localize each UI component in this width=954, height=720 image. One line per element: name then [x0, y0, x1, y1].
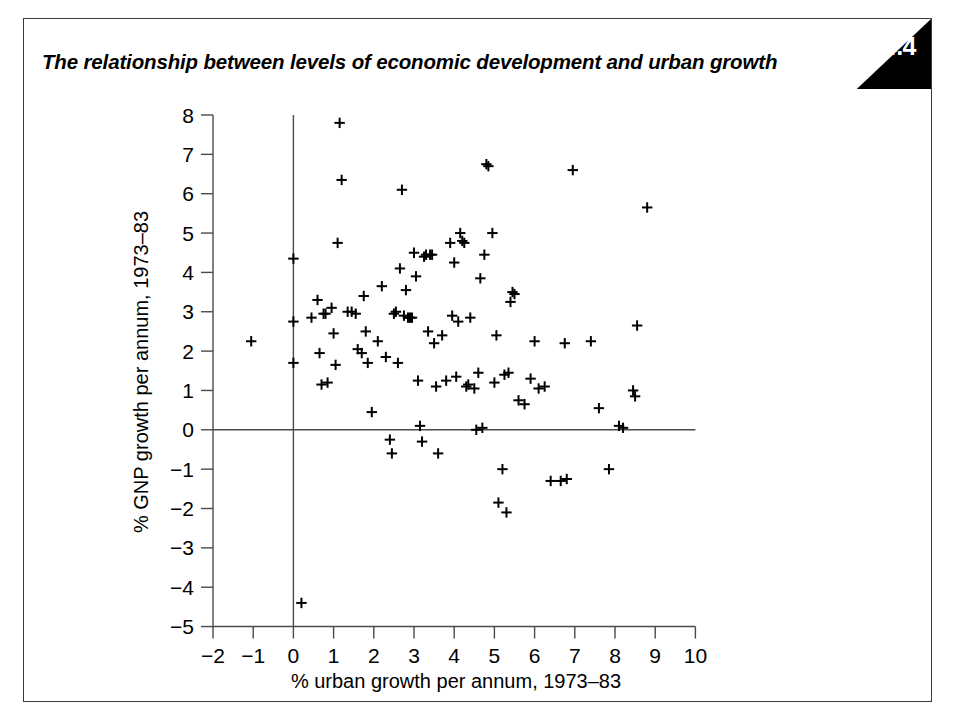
y-tick-label: 2: [182, 340, 194, 363]
data-point: [471, 425, 481, 435]
data-point: [562, 474, 572, 484]
y-tick-label: 1: [182, 379, 194, 402]
data-point: [417, 436, 427, 446]
data-point: [336, 175, 346, 185]
data-point: [441, 375, 451, 385]
data-point: [594, 403, 604, 413]
data-point: [419, 251, 429, 261]
x-axis: [213, 627, 695, 639]
data-point: [475, 273, 485, 283]
data-point: [397, 185, 407, 195]
data-point: [628, 385, 638, 395]
x-tick-label: −2: [201, 644, 225, 667]
data-point: [539, 381, 549, 391]
data-point: [459, 238, 469, 248]
data-point: [453, 316, 463, 326]
data-point: [501, 507, 511, 517]
data-point: [320, 309, 330, 319]
data-point: [487, 228, 497, 238]
y-tick-label: −3: [170, 536, 194, 559]
data-point: [465, 312, 475, 322]
x-axis-title: % urban growth per annum, 1973–83: [291, 670, 621, 692]
data-point: [314, 348, 324, 358]
y-tick-label: 5: [182, 222, 194, 245]
x-tick-label: 2: [368, 644, 380, 667]
x-tick-label: 0: [288, 644, 300, 667]
data-point: [373, 336, 383, 346]
data-point: [387, 448, 397, 458]
data-point: [411, 271, 421, 281]
x-tick-label: 6: [529, 644, 541, 667]
x-tick-label: 5: [489, 644, 501, 667]
y-tick-label: 8: [182, 104, 194, 127]
y-tick-label: 6: [182, 182, 194, 205]
y-tick-label: 0: [182, 418, 194, 441]
y-axis: [201, 115, 213, 627]
data-point: [385, 434, 395, 444]
data-point: [359, 291, 369, 301]
reference-lines: [213, 115, 695, 627]
y-axis-title: % GNP growth per annum, 1973–83: [130, 211, 152, 533]
data-point: [586, 336, 596, 346]
data-point: [334, 118, 344, 128]
data-point: [401, 285, 411, 295]
data-point: [483, 161, 493, 171]
x-tick-labels: −2−1012345678910: [201, 644, 707, 667]
data-point: [525, 373, 535, 383]
data-point: [455, 228, 465, 238]
data-point: [427, 249, 437, 259]
data-point: [296, 598, 306, 608]
data-point-layer: [246, 118, 652, 608]
data-point: [491, 330, 501, 340]
y-tick-label: 4: [182, 261, 194, 284]
data-point: [533, 383, 543, 393]
data-point: [568, 165, 578, 175]
y-tick-label: −5: [170, 615, 194, 638]
data-point: [431, 381, 441, 391]
data-point: [489, 377, 499, 387]
data-point: [445, 238, 455, 248]
data-point: [632, 320, 642, 330]
x-tick-label: 7: [569, 644, 581, 667]
data-point: [288, 358, 298, 368]
data-point: [316, 379, 326, 389]
data-point: [288, 253, 298, 263]
data-point: [246, 336, 256, 346]
data-point: [332, 238, 342, 248]
data-point: [481, 159, 491, 169]
y-tick-label: 7: [182, 143, 194, 166]
data-point: [312, 295, 322, 305]
data-point: [381, 352, 391, 362]
data-point: [306, 312, 316, 322]
data-point: [326, 303, 336, 313]
data-point: [630, 391, 640, 401]
x-tick-label: 9: [649, 644, 661, 667]
data-point: [507, 287, 517, 297]
y-tick-labels: −5−4−3−2−1012345678: [170, 104, 194, 639]
data-point: [393, 358, 403, 368]
data-point: [429, 338, 439, 348]
y-tick-label: 3: [182, 300, 194, 323]
data-point: [409, 248, 419, 258]
data-point: [433, 448, 443, 458]
data-point: [479, 249, 489, 259]
data-point: [497, 464, 507, 474]
data-point: [363, 358, 373, 368]
data-point: [361, 326, 371, 336]
data-point: [560, 338, 570, 348]
data-point: [377, 281, 387, 291]
data-point: [493, 497, 503, 507]
data-point: [449, 257, 459, 267]
x-tick-label: −1: [241, 644, 265, 667]
x-tick-label: 4: [448, 644, 460, 667]
data-point: [545, 476, 555, 486]
y-tick-label: −1: [170, 458, 194, 481]
y-tick-label: −2: [170, 497, 194, 520]
x-tick-label: 1: [328, 644, 340, 667]
chart-canvas: −5−4−3−2−1012345678 −2−1012345678910 % u…: [0, 0, 954, 720]
scatter-chart: −5−4−3−2−1012345678 −2−1012345678910 % u…: [0, 0, 954, 720]
data-point: [389, 309, 399, 319]
data-point: [477, 423, 487, 433]
data-point: [529, 336, 539, 346]
x-tick-label: 3: [408, 644, 420, 667]
